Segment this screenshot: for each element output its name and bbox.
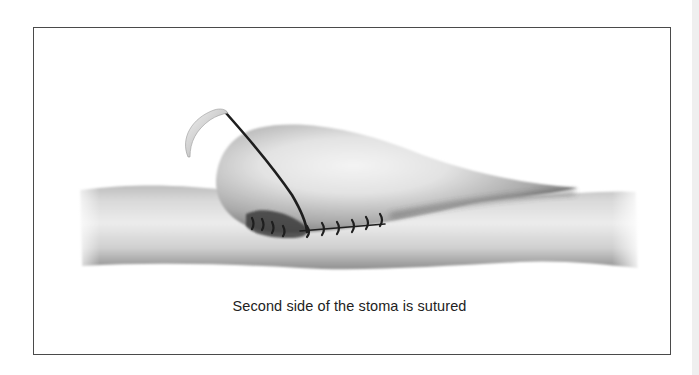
surgical-illustration	[0, 0, 699, 375]
curved-surgical-needle	[186, 109, 228, 157]
figure-caption: Second side of the stoma is sutured	[0, 298, 699, 314]
